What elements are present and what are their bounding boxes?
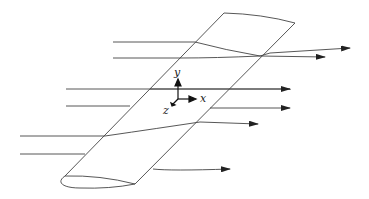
streamline-4 xyxy=(66,106,290,108)
streamline-2 xyxy=(113,56,325,58)
y-axis-label: y xyxy=(174,67,180,78)
wing-tip-top xyxy=(224,13,295,23)
streamline-1 xyxy=(113,42,350,56)
z-axis-label: z xyxy=(163,105,169,116)
wing-flow-diagram xyxy=(0,0,369,199)
wing-root-airfoil xyxy=(61,176,135,188)
streamline-5 xyxy=(20,122,258,136)
coordinate-axes xyxy=(171,79,196,106)
streamline-6 xyxy=(20,154,230,170)
x-axis-label: x xyxy=(200,93,206,104)
